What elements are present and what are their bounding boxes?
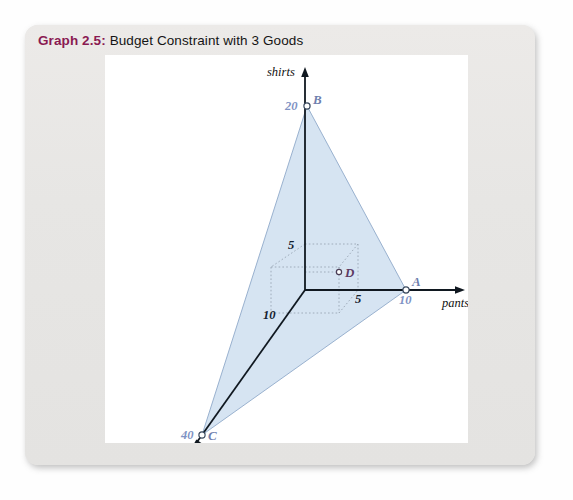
screenshot-root: Graph 2.5: Budget Constraint with 3 Good… (0, 0, 573, 500)
figure-title: Budget Constraint with 3 Goods (110, 33, 304, 48)
axis-pants-arrow (455, 286, 465, 294)
point-label-b: B (312, 92, 322, 107)
point-d-marker (336, 269, 341, 274)
budget-constraint-plot: shirts pants socks A B C D 10 20 40 5 5 … (105, 55, 468, 443)
value-label-a: 10 (399, 293, 412, 307)
point-label-a: A (411, 274, 421, 289)
figure-number: Graph 2.5: (38, 33, 106, 48)
point-label-c: C (208, 428, 217, 443)
point-label-d: D (344, 265, 355, 280)
figure-panel: Graph 2.5: Budget Constraint with 3 Good… (25, 25, 535, 465)
value-label-b: 20 (284, 99, 298, 113)
plot-canvas: shirts pants socks A B C D 10 20 40 5 5 … (105, 55, 468, 443)
point-c-marker (199, 432, 205, 438)
value-label-c: 40 (180, 428, 194, 442)
tick-label-pants-5: 5 (355, 292, 361, 306)
axis-shirts-arrow (301, 67, 309, 77)
tick-label-socks-10: 10 (263, 308, 276, 322)
budget-plane-fill (202, 106, 406, 435)
tick-label-shirts-5: 5 (288, 238, 294, 252)
axis-label-shirts: shirts (267, 65, 295, 79)
point-b-marker (304, 103, 310, 109)
figure-caption: Graph 2.5: Budget Constraint with 3 Good… (38, 33, 303, 48)
axis-label-pants: pants (441, 296, 468, 310)
